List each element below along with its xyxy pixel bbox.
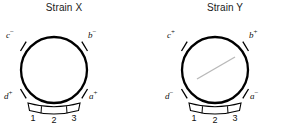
fragment-divider-2 bbox=[228, 106, 229, 113]
locus-label-b: b− bbox=[88, 31, 96, 40]
locus-tick-d bbox=[21, 89, 27, 98]
segment-number-1: 1 bbox=[28, 114, 38, 123]
fragment-divider-2 bbox=[67, 106, 68, 113]
fragment-divider-1 bbox=[41, 106, 42, 113]
segment-number-2: 2 bbox=[210, 116, 220, 125]
locus-label-a: a− bbox=[250, 92, 258, 101]
panel-strain-x: Strain X c− b− d+ a+ 1 2 3 bbox=[0, 0, 146, 132]
strain-y-diagram bbox=[145, 0, 291, 132]
locus-tick-b bbox=[82, 42, 88, 51]
locus-label-c: c+ bbox=[167, 31, 175, 40]
locus-tick-a bbox=[82, 89, 88, 98]
locus-label-d: d− bbox=[165, 92, 173, 101]
segment-number-3: 3 bbox=[69, 114, 79, 123]
locus-label-d: d+ bbox=[4, 92, 12, 101]
locus-label-b: b+ bbox=[249, 31, 257, 40]
segment-number-2: 2 bbox=[49, 116, 59, 125]
internal-recombination-line bbox=[197, 57, 235, 79]
chromosome-circle bbox=[182, 37, 248, 103]
segment-number-1: 1 bbox=[189, 114, 199, 123]
chromosome-circle bbox=[21, 37, 87, 103]
locus-tick-d bbox=[182, 89, 188, 98]
segment-number-3: 3 bbox=[230, 114, 240, 123]
locus-label-c: c− bbox=[6, 31, 14, 40]
locus-tick-c bbox=[182, 42, 188, 51]
locus-tick-a bbox=[243, 89, 249, 98]
locus-label-a: a+ bbox=[89, 92, 97, 101]
locus-tick-b bbox=[243, 42, 249, 51]
chromosome-map-figure: Strain X c− b− d+ a+ 1 2 3 Strain Y bbox=[0, 0, 291, 132]
panel-strain-y: Strain Y c+ b+ d− a− 1 2 3 bbox=[145, 0, 291, 132]
fragment-divider-1 bbox=[202, 106, 203, 113]
locus-tick-c bbox=[21, 42, 27, 51]
